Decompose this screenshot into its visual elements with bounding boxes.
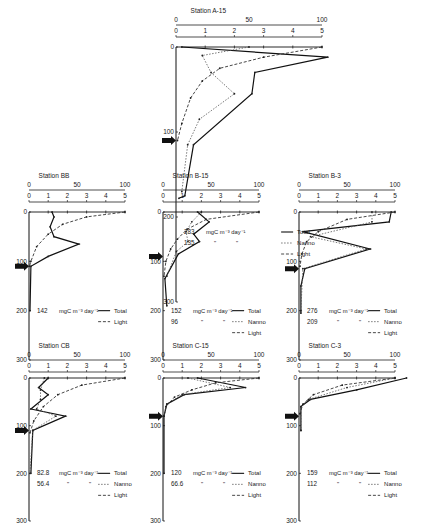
- integrated-nanno: 56.4: [37, 480, 50, 487]
- light-scale-tick: 0: [297, 351, 301, 358]
- depth-tick: 100: [150, 422, 161, 429]
- legend-nanno: Nanno: [248, 481, 266, 487]
- series-total: [301, 212, 391, 313]
- production-scale-tick: 0: [27, 362, 31, 369]
- production-scale-tick: 4: [238, 192, 242, 199]
- light-scale-tick: 50: [207, 181, 215, 188]
- unit-label: mgC m⁻³ day⁻¹: [193, 470, 233, 476]
- legend-light: Light: [248, 492, 261, 498]
- light-scale-tick: 100: [120, 181, 131, 188]
- depth-tick: 300: [286, 517, 297, 523]
- legend-total: Total: [114, 470, 127, 476]
- production-scale-tick: 1: [46, 362, 50, 369]
- light-scale-tick: 0: [161, 351, 165, 358]
- ditto-mark: ": [89, 481, 91, 487]
- station-title: Station A-15: [191, 7, 227, 14]
- light-scale-tick: 50: [73, 351, 81, 358]
- production-scale-tick: 2: [200, 362, 204, 369]
- panel-station-a-15: Station A-150501000123450100200300283mgC…: [162, 7, 329, 305]
- light-scale-tick: 50: [73, 181, 81, 188]
- legend-light: Light: [384, 330, 397, 336]
- production-scale-tick: 3: [219, 192, 223, 199]
- production-scale-tick: 2: [233, 27, 237, 34]
- production-scale-tick: 2: [200, 192, 204, 199]
- integrated-total: 142: [37, 307, 48, 314]
- light-scale-tick: 0: [161, 181, 165, 188]
- unit-label: mgC m⁻³ day⁻¹: [59, 470, 99, 476]
- production-scale-tick: 3: [355, 192, 359, 199]
- production-scale-tick: 3: [85, 192, 89, 199]
- legend-light: Light: [114, 319, 127, 325]
- light-scale-tick: 100: [390, 351, 401, 358]
- depth-tick: 0: [23, 374, 27, 381]
- ditto-mark: ": [223, 319, 225, 325]
- light-scale-tick: 100: [390, 181, 401, 188]
- production-scale-tick: 0: [161, 192, 165, 199]
- panel-station-bb: Station BB0501000123450100200300142mgC m…: [15, 172, 131, 363]
- legend-light: Light: [248, 330, 261, 336]
- production-scale-tick: 5: [257, 362, 261, 369]
- light-scale-tick: 50: [343, 351, 351, 358]
- integrated-total: 152: [171, 307, 182, 314]
- light-scale-tick: 100: [317, 16, 328, 23]
- production-scale-tick: 5: [257, 192, 261, 199]
- unit-label: mgC m⁻³ day⁻¹: [206, 229, 246, 235]
- unit-label: mgC m⁻³ day⁻¹: [329, 470, 369, 476]
- depth-tick: 0: [170, 43, 174, 50]
- depth-tick: 200: [16, 307, 27, 314]
- arrow-icon: [149, 412, 163, 421]
- depth-tick: 100: [286, 422, 297, 429]
- production-scale-tick: 4: [104, 362, 108, 369]
- depth-tick: 100: [163, 128, 174, 135]
- series-light: [164, 212, 259, 276]
- legend-total: Total: [384, 470, 397, 476]
- arrow-icon: [285, 264, 299, 273]
- series-total: [31, 378, 66, 473]
- integrated-nanno: 96: [171, 318, 179, 325]
- integrated-total: 82.8: [37, 469, 50, 476]
- legend-total: Total: [248, 308, 261, 314]
- unit-label: mgC m⁻³ day⁻¹: [193, 308, 233, 314]
- integrated-total: 120: [171, 469, 182, 476]
- series-total: [30, 212, 79, 311]
- unit-label: mgC m⁻³ day⁻¹: [329, 308, 369, 314]
- station-title: Station BB: [39, 172, 70, 179]
- depth-tick: 100: [286, 258, 297, 265]
- production-scale-tick: 5: [393, 192, 397, 199]
- series-nanno: [301, 378, 395, 430]
- depth-tick: 0: [293, 374, 297, 381]
- depth-tick: 0: [23, 208, 27, 215]
- production-scale-tick: 5: [393, 362, 397, 369]
- production-scale-tick: 4: [374, 192, 378, 199]
- integrated-nanno: 112: [307, 480, 318, 487]
- ditto-mark: ": [201, 481, 203, 487]
- light-scale-tick: 0: [27, 181, 31, 188]
- ditto-mark: ": [67, 481, 69, 487]
- integrated-nanno: 209: [307, 318, 318, 325]
- production-scale-tick: 1: [203, 27, 207, 34]
- production-scale-tick: 1: [316, 362, 320, 369]
- production-scale-tick: 4: [104, 192, 108, 199]
- depth-tick: 200: [150, 307, 161, 314]
- depth-tick: 300: [150, 517, 161, 523]
- light-scale-tick: 50: [245, 16, 253, 23]
- legend-nanno: Nanno: [114, 481, 132, 487]
- light-scale-tick: 0: [27, 351, 31, 358]
- ditto-mark: ": [359, 319, 361, 325]
- series-nanno: [301, 212, 372, 311]
- series-nanno: [182, 47, 249, 192]
- production-scale-tick: 0: [174, 27, 178, 34]
- depth-tick: 300: [286, 356, 297, 363]
- legend-light: Light: [384, 492, 397, 498]
- production-scale-tick: 0: [27, 192, 31, 199]
- series-light: [300, 378, 395, 414]
- legend-nanno: Nanno: [384, 481, 402, 487]
- production-scale-tick: 3: [219, 362, 223, 369]
- ditto-mark: ": [223, 481, 225, 487]
- depth-tick: 200: [163, 213, 174, 220]
- arrow-icon: [162, 136, 176, 145]
- production-scale-tick: 1: [316, 192, 320, 199]
- station-title: Station C-15: [173, 342, 210, 349]
- unit-label: mgC m⁻³ day⁻¹: [59, 308, 99, 314]
- production-scale-tick: 3: [355, 362, 359, 369]
